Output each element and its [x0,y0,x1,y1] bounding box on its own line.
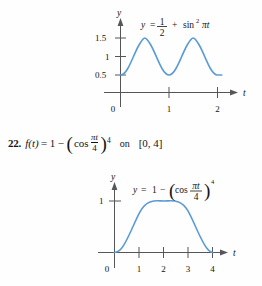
problem-equals: = [41,137,47,149]
bottom-eq-minus: − [160,185,165,195]
top-eq-y: y [140,20,146,30]
bottom-chart-xtick-4: 4 [210,264,215,274]
bottom-chart-y-axis-label: y [110,172,116,182]
problem-fraction-denominator: 4 [91,142,98,153]
problem-minus: − [58,137,64,149]
top-eq-frac-denominator: 2 [160,28,165,38]
problem-cos: cos [74,137,89,149]
problem-fraction-numerator: πt [90,133,99,143]
top-eq-equals: = [150,20,155,30]
problem-interval: [0, 4] [139,137,163,149]
bottom-chart-xtick-2: 2 [161,264,166,274]
top-chart-curve [121,38,222,75]
bottom-chart-ytick-1: 1 [99,196,104,206]
bottom-eq-cos: cos [175,185,188,195]
top-eq-sin: sin [183,20,194,30]
top-eq-sin-exponent: 2 [196,17,199,24]
problem-on-word: on [120,138,130,149]
top-chart-x-axis-label: t [243,88,246,98]
bottom-chart-x-axis-label: t [233,248,236,258]
top-chart-y-axis [118,18,124,107]
top-chart-ytick-0_5: 0.5 [95,70,107,80]
bottom-eq-frac-numerator: πt [192,181,200,191]
top-chart-xtick-0: 0 [111,104,116,114]
bottom-chart-y-axis [112,182,118,268]
bottom-eq-one: 1 [152,185,157,195]
problem-fraction: πt 4 [90,133,99,153]
top-chart-xtick-2: 2 [215,104,220,114]
top-eq-plus: + [172,20,177,30]
bottom-chart-curve [115,201,213,253]
problem-one: 1 [50,137,56,149]
bottom-eq-close-paren: ) [204,180,210,202]
bottom-chart-xtick-3: 3 [186,264,191,274]
top-chart-y-axis-label: y [116,8,122,18]
bottom-chart-xtick-0: 0 [105,264,110,274]
bottom-graph-figure: y t 1 0 1 2 3 4 y = [0,160,262,282]
bottom-chart-equation-label: y = 1 − ( cos πt 4 ) 4 [132,178,215,202]
top-eq-argument: πt [202,20,210,30]
bottom-eq-frac-denominator: 4 [194,192,199,202]
top-chart-svg: y t 1.5 1 0.5 0 1 2 y [0,2,262,122]
problem-open-paren: ( [67,133,73,155]
bottom-eq-exponent: 4 [211,178,215,185]
problem-statement: 22. f(t) = 1 − ( cos πt 4 ) 4 on [0, 4] [8,128,258,158]
bottom-chart-xtick-1: 1 [137,264,142,274]
top-chart-ytick-1_5: 1.5 [95,33,107,43]
bottom-eq-equals: = [141,185,146,195]
problem-exponent: 4 [107,136,111,145]
top-chart-xtick-1: 1 [167,104,172,114]
problem-lhs: f(t) [25,137,38,149]
bottom-chart-svg: y t 1 0 1 2 3 4 y = [0,160,262,282]
exercise-page: y t 1.5 1 0.5 0 1 2 y [0,0,262,286]
top-chart-equation-label: y = 1 2 + sin 2 πt [140,17,210,38]
problem-number: 22. [8,137,21,149]
top-eq-frac-numerator: 1 [160,17,165,27]
top-chart-ytick-1: 1 [105,52,110,62]
bottom-eq-y: y [132,185,138,195]
top-graph-figure: y t 1.5 1 0.5 0 1 2 y [0,2,262,122]
